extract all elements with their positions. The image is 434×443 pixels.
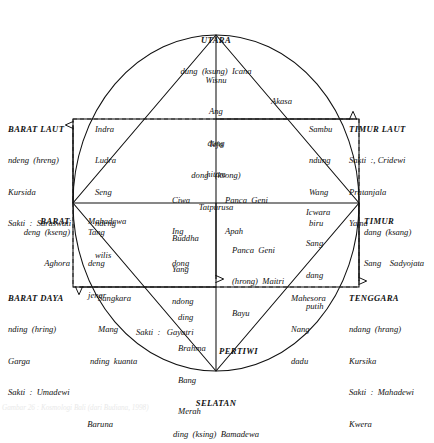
label-timur-line-0: dang (ksang): [364, 227, 424, 237]
label-teja-0: Teja: [178, 139, 254, 149]
label-apah-0: Panca Geni: [225, 195, 268, 205]
label-brahma-3: Merah: [178, 406, 206, 416]
label-buddha-2: ndong: [172, 296, 199, 306]
label-mahadewa-3: jenar: [88, 290, 106, 300]
figure-caption: Gambar 26 : Kosmologi Bali (dari Budiana…: [2, 404, 149, 412]
label-akasa: Akasa: [271, 75, 292, 127]
label-sangkara-2: nding kuanta: [90, 356, 137, 366]
label-barat-laut-line-1: Kursida: [8, 187, 71, 197]
label-ludra-2: Seng: [95, 187, 116, 197]
label-tenggara-name: TENGGARA: [349, 293, 414, 303]
label-bayu-2: Bayu: [232, 308, 284, 318]
label-barat-laut-line-0: ndeng (hreng): [8, 155, 71, 165]
label-ludra-0: Indra: [95, 124, 116, 134]
label-barat-line-1: Aghora: [0, 258, 70, 268]
label-ludra-4: wilis: [95, 250, 116, 260]
label-tenggara: TENGGARA ndang (hrang) Kursika Sakti : M…: [349, 272, 414, 443]
label-barat-daya-line-2: Sakti : Umadewi: [8, 387, 113, 397]
label-ludra-1: Ludra: [95, 155, 116, 165]
label-selatan-name: SELATAN: [150, 398, 282, 408]
label-buddha-1: Yang: [172, 264, 199, 274]
label-icwara-0: Icwara: [306, 207, 330, 217]
label-barat-daya-line-3: Baruna: [8, 419, 113, 429]
label-wisnu-1: Ang: [180, 106, 252, 116]
label-bayu: Panca Geni (hrong) Maitri Bayu: [232, 224, 284, 339]
label-mahesora-1: Nang: [291, 324, 326, 334]
label-sambu-0: Sambu: [309, 124, 332, 134]
label-mahesora-2: dadu: [291, 356, 326, 366]
label-mahesora-0: Mahesora: [291, 293, 326, 303]
label-barat-laut-name: BARAT LAUT: [8, 124, 71, 134]
label-barat-laut-line-2: Sakti : Saraswati: [8, 218, 71, 228]
label-ludra: Indra Ludra Seng ndeng wilis: [95, 103, 116, 281]
label-wisnu-0: Wisnu: [180, 75, 252, 85]
label-sambu-1: ndung: [309, 155, 332, 165]
label-utara-name: UTARA: [160, 35, 272, 45]
label-pertiwi: PERTIWI: [219, 325, 258, 377]
label-timur-laut-name: TIMUR LAUT: [349, 124, 406, 134]
label-mahesora: Mahesora Nang dadu: [291, 272, 326, 387]
label-buddha: Buddha Yang ndong Sakti : Gayatri: [172, 212, 199, 359]
label-ludra-3: ndeng: [95, 218, 116, 228]
label-buddha-0: Buddha: [172, 233, 199, 243]
label-tenggara-line-0: ndang (hrang): [349, 324, 414, 334]
label-brahma-2: Bang: [178, 375, 206, 385]
label-tenggara-line-3: Kwera: [349, 419, 414, 429]
label-akasa-text: Akasa: [271, 96, 292, 106]
label-tenggara-line-2: Sakti : Mahadewi: [349, 387, 414, 397]
label-timur-line-1: Sang Sadyojata: [364, 258, 424, 268]
label-tenggara-line-1: Kursika: [349, 356, 414, 366]
label-icwara-1: Sang: [306, 238, 330, 248]
label-bayu-0: Panca Geni: [232, 245, 284, 255]
label-barat-laut: BARAT LAUT ndeng (hreng) Kursida Sakti :…: [8, 103, 71, 250]
label-sangkara-1: Mang: [98, 324, 137, 334]
label-timur-laut-line-0: Sakti :, Cridewi: [349, 155, 406, 165]
label-buddha-3: Sakti : Gayatri: [136, 327, 199, 337]
label-bayu-1: (hrong) Maitri: [232, 276, 284, 286]
label-selatan: SELATAN ding (ksing) Bamadewa: [150, 377, 282, 443]
label-selatan-line-0: ding (ksing) Bamadewa: [150, 429, 282, 439]
label-pertiwi-text: PERTIWI: [219, 346, 258, 356]
